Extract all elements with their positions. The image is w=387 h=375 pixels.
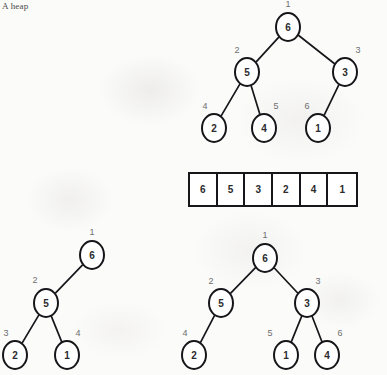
- node-index-label: 4: [182, 328, 187, 338]
- tree-edge: [275, 268, 298, 293]
- node-index-label: 3: [315, 276, 320, 286]
- tree-edge: [256, 37, 278, 61]
- node-index-label: 6: [304, 101, 309, 111]
- tree-edge: [22, 315, 38, 342]
- figure-caption: A heap: [2, 1, 28, 11]
- array-cell: 1: [328, 174, 356, 205]
- node-index-label: 6: [337, 328, 342, 338]
- node-index-label: 1: [262, 230, 267, 240]
- node-index-label: 4: [202, 101, 207, 111]
- tree-node: 3: [294, 288, 320, 318]
- array-cell: 5: [218, 174, 246, 205]
- node-index-label: 1: [285, 0, 290, 9]
- tree-node: 6: [275, 12, 301, 42]
- tree-node: 6: [79, 240, 105, 270]
- tree-edge: [299, 35, 335, 63]
- tree-edge: [312, 317, 321, 342]
- tree-edge: [56, 265, 83, 293]
- node-index-label: 3: [3, 328, 8, 338]
- node-index-label: 2: [234, 45, 239, 55]
- array-cell: 6: [190, 174, 218, 205]
- tree-node: 1: [305, 113, 331, 143]
- node-index-label: 3: [355, 45, 360, 55]
- heap-array: 653241: [188, 172, 358, 207]
- tree-node: 2: [201, 113, 227, 143]
- node-index-label: 5: [267, 328, 272, 338]
- node-index-label: 4: [75, 328, 80, 338]
- tree-edge: [201, 316, 215, 342]
- array-cell: 4: [301, 174, 329, 205]
- tree-node: 3: [332, 57, 358, 87]
- tree-node: 6: [252, 243, 278, 273]
- node-index-label: 5: [273, 101, 278, 111]
- node-index-label: 2: [32, 275, 37, 285]
- array-cell: 2: [273, 174, 301, 205]
- tree-node: 1: [54, 340, 80, 370]
- heap-diagram-page: A heap 65324112345665211234653214123456 …: [0, 0, 387, 375]
- tree-node: 4: [251, 113, 277, 143]
- node-index-label: 2: [208, 276, 213, 286]
- node-index-label: 1: [89, 227, 94, 237]
- tree-node: 1: [273, 340, 299, 370]
- array-cell: 3: [245, 174, 273, 205]
- tree-edge: [291, 317, 301, 342]
- tree-edge: [251, 86, 259, 114]
- tree-node: 5: [33, 288, 59, 318]
- tree-edge: [221, 84, 239, 115]
- tree-node: 5: [234, 57, 260, 87]
- tree-node: 2: [181, 340, 207, 370]
- tree-node: 2: [2, 340, 28, 370]
- tree-node: 5: [208, 288, 234, 318]
- tree-node: 4: [314, 340, 340, 370]
- tree-edge: [231, 268, 256, 293]
- tree-edge: [51, 317, 61, 342]
- tree-edge: [324, 85, 338, 115]
